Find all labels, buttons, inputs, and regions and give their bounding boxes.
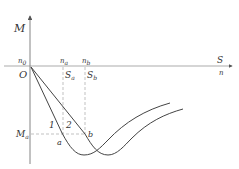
origin-label: O xyxy=(19,69,27,80)
na-label: na xyxy=(60,57,69,66)
y-axis-label: M xyxy=(13,22,26,35)
x-axis-label-n: n xyxy=(219,69,224,77)
x-axis-label-s: S xyxy=(217,55,223,65)
point-b-label: b xyxy=(88,130,93,139)
ma-label: Ma xyxy=(15,129,29,140)
n0-label: n0 xyxy=(18,57,27,66)
curve-2 xyxy=(31,67,183,155)
curve-1-label: 1 xyxy=(49,120,55,130)
curve-2-label: 2 xyxy=(65,120,72,130)
sa-label: Sa xyxy=(65,70,75,81)
nb-label: nb xyxy=(82,57,91,66)
point-a-label: a xyxy=(57,138,62,147)
curve-1 xyxy=(31,67,170,155)
sb-label: Sb xyxy=(87,70,97,81)
torque-slip-diagram: M S n O n0 na nb Sa Sb Ma 1 2 a b xyxy=(0,0,239,169)
